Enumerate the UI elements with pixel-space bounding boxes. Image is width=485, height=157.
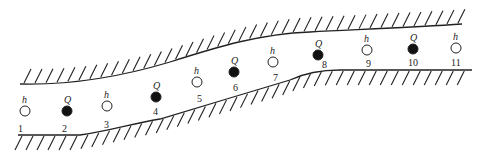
- hatch-mark: [103, 131, 110, 145]
- well-number-label: 4: [153, 106, 158, 117]
- hatch-mark: [392, 13, 399, 27]
- well-symbol-label: h: [194, 65, 199, 76]
- observation-well-marker: [20, 106, 30, 116]
- hatch-mark: [228, 30, 235, 44]
- hatch-mark: [293, 18, 300, 32]
- well-9: h9: [362, 33, 372, 69]
- hatch-mark: [314, 72, 321, 86]
- hatch-mark: [144, 54, 151, 68]
- hatch-mark: [458, 9, 465, 23]
- hatch-mark: [122, 59, 129, 73]
- hatch-mark: [24, 69, 31, 83]
- hatch-mark: [336, 71, 343, 85]
- hatch-mark: [68, 67, 75, 81]
- hatch-mark: [165, 48, 172, 62]
- hatch-mark: [57, 68, 64, 82]
- hatch-mark: [315, 17, 322, 31]
- hatch-mark: [358, 71, 365, 85]
- well-3: h3: [102, 89, 112, 130]
- hatch-mark: [59, 136, 66, 150]
- well-5: h5: [192, 65, 202, 104]
- observation-well-marker: [102, 101, 112, 111]
- hatch-mark: [70, 136, 77, 150]
- hatch-mark: [175, 45, 182, 59]
- well-symbol-label: h: [104, 89, 109, 100]
- hatch-mark: [251, 91, 258, 105]
- hatch-mark: [303, 74, 310, 88]
- well-10: Q10: [408, 32, 418, 68]
- well-number-label: 7: [273, 72, 278, 83]
- well-6: Q6: [229, 55, 239, 93]
- well-8: Q8: [313, 38, 327, 70]
- hatch-mark: [262, 87, 269, 101]
- hatch-mark: [380, 71, 387, 85]
- well-number-label: 10: [408, 57, 418, 68]
- hatch-mark: [154, 51, 161, 65]
- well-number-label: 9: [366, 58, 371, 69]
- well-symbol-label: Q: [231, 55, 239, 66]
- well-symbol-label: Q: [64, 94, 72, 105]
- well-symbol-label: Q: [315, 38, 323, 49]
- pumping-well-marker: [151, 92, 161, 102]
- well-symbol-label: h: [270, 45, 275, 56]
- well-symbol-label: Q: [153, 80, 161, 91]
- hatch-mark: [198, 106, 205, 120]
- hatch-mark: [370, 14, 377, 28]
- upper-hatching: [24, 9, 465, 83]
- well-number-label: 2: [62, 123, 67, 134]
- hatch-mark: [196, 39, 203, 53]
- well-number-label: 11: [451, 57, 461, 68]
- hatch-mark: [424, 71, 431, 85]
- hatch-mark: [26, 136, 33, 150]
- hatch-mark: [186, 42, 193, 56]
- hatch-mark: [135, 123, 142, 137]
- hatch-mark: [337, 16, 344, 30]
- hatch-mark: [90, 65, 97, 79]
- pumping-well-marker: [62, 106, 72, 116]
- hatch-mark: [79, 66, 86, 80]
- hatch-mark: [239, 27, 246, 41]
- wells-group: h1Q2h3Q4h5Q6h7Q8h9Q10h11: [18, 31, 461, 134]
- hatch-mark: [35, 69, 42, 83]
- hatch-mark: [92, 133, 99, 147]
- well-number-label: 3: [104, 119, 109, 130]
- hatch-mark: [81, 135, 88, 149]
- hatch-mark: [177, 113, 184, 127]
- well-symbol-label: h: [453, 31, 458, 42]
- well-symbol-label: h: [22, 94, 27, 105]
- well-11: h11: [451, 31, 461, 68]
- hatch-mark: [272, 84, 279, 98]
- hatch-mark: [381, 14, 388, 28]
- aquifer-diagram: h1Q2h3Q4h5Q6h7Q8h9Q10h11: [0, 0, 485, 157]
- hatch-mark: [348, 15, 355, 29]
- hatch-mark: [101, 63, 108, 77]
- observation-well-marker: [451, 43, 461, 53]
- hatch-mark: [133, 57, 140, 71]
- hatch-mark: [124, 126, 131, 140]
- hatch-mark: [156, 119, 163, 133]
- hatch-mark: [219, 100, 226, 114]
- well-number-label: 6: [233, 82, 238, 93]
- well-number-label: 8: [322, 59, 327, 70]
- pumping-well-marker: [229, 67, 239, 77]
- hatch-mark: [347, 71, 354, 85]
- hatch-mark: [359, 15, 366, 29]
- hatch-mark: [167, 116, 174, 130]
- hatch-mark: [283, 81, 290, 95]
- hatch-mark: [414, 12, 421, 26]
- hatch-mark: [391, 71, 398, 85]
- hatch-mark: [46, 69, 53, 83]
- well-2: Q2: [62, 94, 72, 134]
- hatch-mark: [188, 110, 195, 124]
- lower-hatching: [15, 71, 464, 150]
- well-number-label: 1: [18, 123, 23, 134]
- hatch-mark: [425, 11, 432, 25]
- hatch-mark: [282, 19, 289, 33]
- hatch-mark: [260, 22, 267, 36]
- well-symbol-label: h: [364, 33, 369, 44]
- hatch-mark: [457, 71, 464, 85]
- hatch-mark: [15, 136, 22, 150]
- hatch-mark: [293, 77, 300, 91]
- hatch-mark: [250, 25, 257, 39]
- hatch-mark: [447, 10, 454, 24]
